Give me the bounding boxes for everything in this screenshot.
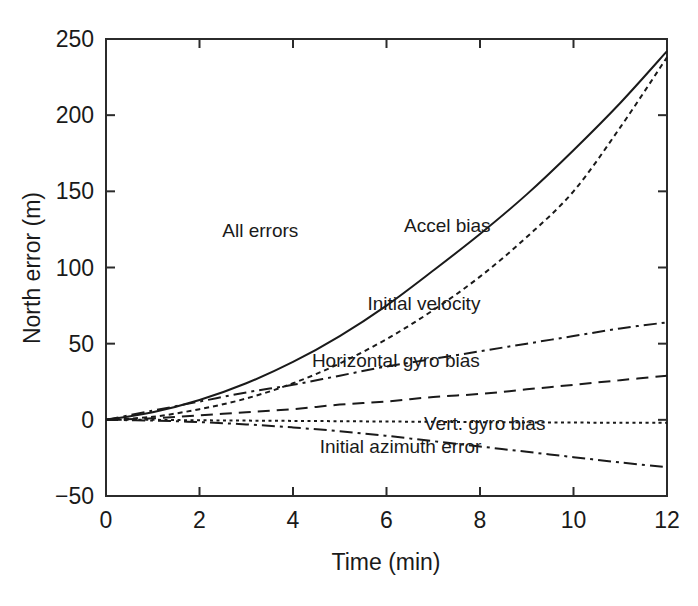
y-tick-label: −50	[55, 483, 94, 509]
y-tick-label: 100	[56, 255, 94, 281]
north-error-vs-time-chart: 024681012 −50050100150200250 All errorsA…	[0, 0, 698, 606]
x-tick-label: 4	[287, 507, 300, 533]
series-label-initial-azimuth-error: Initial azimuth error	[320, 436, 482, 457]
y-tick-label: 250	[56, 26, 94, 52]
y-tick-label: 200	[56, 102, 94, 128]
series-label-accel-bias: Accel bias	[404, 215, 491, 236]
x-axis-title: Time (min)	[331, 549, 440, 575]
x-tick-label: 0	[100, 507, 113, 533]
y-axis-title: North error (m)	[19, 192, 45, 344]
series-label-all-errors: All errors	[222, 220, 298, 241]
y-tick-label: 50	[68, 331, 94, 357]
x-tick-label: 6	[380, 507, 393, 533]
x-tick-label: 8	[474, 507, 487, 533]
y-tick-label: 0	[81, 407, 94, 433]
x-tick-label: 2	[193, 507, 206, 533]
series-label-horizontal-gyro-bias: Horizontal gyro bias	[312, 350, 480, 371]
series-label-initial-velocity: Initial velocity	[367, 293, 480, 314]
series-label-vert-gyro-bias: Vert. gyro bias	[424, 413, 545, 434]
x-tick-label: 12	[654, 507, 680, 533]
y-tick-label: 150	[56, 178, 94, 204]
x-tick-label: 10	[561, 507, 587, 533]
figure-container: 024681012 −50050100150200250 All errorsA…	[0, 0, 698, 606]
